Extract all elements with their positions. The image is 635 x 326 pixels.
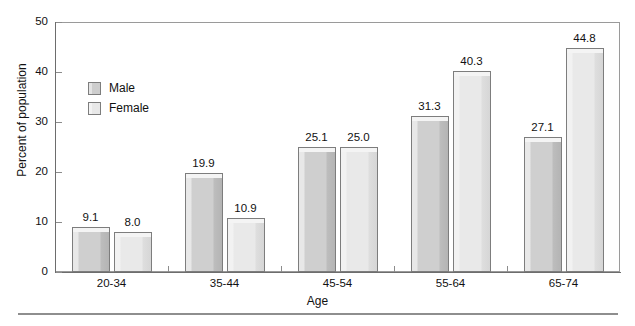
bar-top-bevel (411, 116, 449, 121)
bar-male-55-64 (411, 116, 449, 273)
legend-label-female: Female (109, 101, 149, 115)
bar-face (566, 48, 604, 272)
y-tick-mark (56, 72, 62, 73)
bar-face (114, 232, 152, 272)
bar-face (340, 147, 378, 272)
bar-face (524, 137, 562, 273)
y-tick-label: 0 (18, 266, 48, 277)
bar-female-20-34 (114, 232, 152, 272)
y-tick-label: 50 (18, 16, 48, 27)
x-tick-mark (281, 266, 282, 272)
bar-face (411, 116, 449, 273)
bar-top-bevel (185, 173, 223, 178)
bar-face (227, 218, 265, 273)
x-axis-title: Age (0, 294, 635, 308)
bar-value-label: 25.0 (329, 131, 389, 143)
y-tick-mark (56, 272, 62, 273)
bar-face (453, 71, 491, 273)
x-category-label: 45-54 (293, 277, 383, 289)
y-tick-label: 20 (18, 166, 48, 177)
bar-top-bevel (114, 232, 152, 237)
x-category-label: 20-34 (67, 277, 157, 289)
y-tick-mark (56, 22, 62, 23)
bar-top-bevel (453, 71, 491, 76)
bar-face (298, 147, 336, 273)
bar-male-65-74 (524, 137, 562, 273)
x-category-label: 65-74 (519, 277, 609, 289)
bar-face (185, 173, 223, 273)
x-category-label: 55-64 (406, 277, 496, 289)
x-category-label: 35-44 (180, 277, 270, 289)
bar-face (72, 227, 110, 273)
female-swatch-icon (88, 102, 101, 115)
bar-value-label: 10.9 (216, 202, 276, 214)
bar-male-35-44 (185, 173, 223, 273)
bar-value-label: 19.9 (174, 157, 234, 169)
bar-female-35-44 (227, 218, 265, 273)
bar-female-45-54 (340, 147, 378, 272)
y-tick-label: 30 (18, 116, 48, 127)
bar-top-bevel (340, 147, 378, 152)
bar-female-65-74 (566, 48, 604, 272)
x-axis-line (55, 272, 621, 273)
x-tick-mark (168, 266, 169, 272)
x-tick-mark (394, 266, 395, 272)
y-tick-mark (56, 122, 62, 123)
bar-value-label: 31.3 (400, 100, 460, 112)
bar-male-20-34 (72, 227, 110, 273)
male-swatch-icon (88, 82, 101, 95)
bar-top-bevel (524, 137, 562, 142)
bar-female-55-64 (453, 71, 491, 273)
bar-value-label: 8.0 (103, 216, 163, 228)
bar-value-label: 27.1 (513, 121, 573, 133)
bar-male-45-54 (298, 147, 336, 273)
bar-top-bevel (566, 48, 604, 53)
y-tick-mark (56, 172, 62, 173)
legend-item-female: Female (88, 98, 149, 118)
bar-value-label: 44.8 (555, 32, 615, 44)
bar-chart-figure: Percent of population 01020304050 20-343… (0, 0, 635, 326)
legend-label-male: Male (109, 81, 135, 95)
bar-value-label: 40.3 (442, 55, 502, 67)
legend: Male Female (88, 78, 149, 118)
legend-item-male: Male (88, 78, 149, 98)
bottom-divider (18, 313, 618, 315)
y-tick-label: 10 (18, 216, 48, 227)
bar-top-bevel (298, 147, 336, 152)
bar-top-bevel (227, 218, 265, 223)
y-axis-line (55, 22, 56, 273)
y-tick-label: 40 (18, 66, 48, 77)
x-tick-mark (507, 266, 508, 272)
